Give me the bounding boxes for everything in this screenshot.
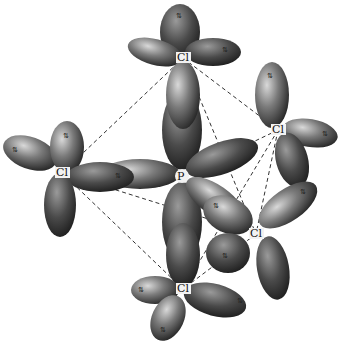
svg-text:⇅: ⇅ <box>176 12 182 20</box>
svg-text:⇅: ⇅ <box>12 146 18 154</box>
atom-label-p: P <box>177 170 185 183</box>
svg-text:⇅: ⇅ <box>63 132 69 140</box>
cl-left-lobes: ⇅ ⇅ ⇅ <box>0 121 134 237</box>
svg-text:⇅: ⇅ <box>115 172 121 180</box>
svg-text:⇅: ⇅ <box>213 202 219 210</box>
orbital-canvas: ⇅ ⇅ ⇅ ⇅ ⇅ ⇅ ⇅ ⇅ ⇅ ⇅ ⇅ ⇅ ⇅ <box>0 0 340 341</box>
atom-label-cl-upper-right: Cl <box>272 123 284 136</box>
svg-text:⇅: ⇅ <box>222 46 228 54</box>
atom-label-cl-lower-right: Cl <box>250 227 262 240</box>
atom-label-cl-bottom: Cl <box>177 282 189 295</box>
svg-text:⇅: ⇅ <box>237 297 243 305</box>
pcl5-orbital-diagram: ⇅ ⇅ ⇅ ⇅ ⇅ ⇅ ⇅ ⇅ ⇅ ⇅ ⇅ ⇅ ⇅ <box>0 0 340 341</box>
atom-label-cl-top: Cl <box>177 51 189 64</box>
svg-text:⇅: ⇅ <box>138 286 144 294</box>
svg-text:⇅: ⇅ <box>160 326 166 334</box>
svg-text:⇅: ⇅ <box>267 72 273 80</box>
cl-top-lobes: ⇅ ⇅ <box>125 4 241 129</box>
svg-text:⇅: ⇅ <box>322 130 328 138</box>
atom-label-cl-left: Cl <box>56 166 68 179</box>
svg-text:⇅: ⇅ <box>222 252 228 260</box>
svg-text:⇅: ⇅ <box>300 188 306 196</box>
cl-upper-right-lobes: ⇅ ⇅ <box>255 62 340 191</box>
